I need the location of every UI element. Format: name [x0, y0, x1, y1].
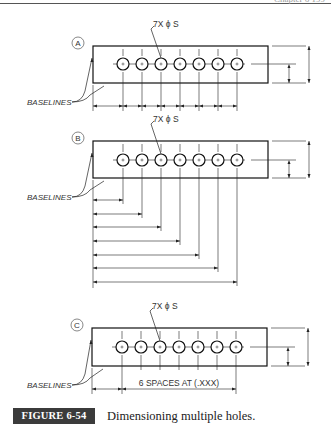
leader-line	[150, 311, 160, 341]
arrowhead-icon	[123, 105, 127, 108]
arrowhead-icon	[157, 226, 161, 229]
arrowhead-icon	[218, 105, 222, 108]
arrowhead-icon	[287, 362, 290, 366]
spaces-dimension-text: 6 SPACES AT (.XXX)	[139, 378, 219, 388]
arrowhead-icon	[214, 105, 218, 108]
view-b: B7X ϕ SBASELINES	[27, 114, 311, 288]
figure-label: FIGURE 6-54	[13, 408, 95, 424]
arrowhead-icon	[92, 388, 96, 391]
textbook-figure-page: Chapter 6 199 A7X ϕ SBASELINESB7X ϕ SBAS…	[0, 0, 331, 434]
figure-caption: Dimensioning multiple holes.	[107, 408, 255, 424]
arrowhead-icon	[195, 105, 199, 108]
arrowhead-icon	[287, 347, 290, 351]
arrowhead-icon	[308, 141, 311, 145]
baseline-leader	[72, 369, 103, 385]
arrowhead-icon	[93, 240, 97, 243]
arrowhead-icon	[176, 240, 180, 243]
arrowhead-icon	[307, 362, 310, 366]
arrowhead-icon	[161, 105, 165, 108]
arrowhead-icon	[199, 105, 203, 108]
view-marker-label: C	[74, 321, 80, 330]
arrowhead-icon	[93, 226, 97, 229]
baselines-label: BASELINES	[27, 193, 72, 202]
arrowhead-icon	[195, 254, 199, 257]
baseline-leader	[72, 181, 104, 197]
baseline-leader	[72, 58, 92, 102]
arrowhead-icon	[93, 105, 97, 108]
arrowhead-icon	[138, 105, 142, 108]
arrowhead-icon	[93, 281, 97, 284]
arrowhead-icon	[142, 105, 146, 108]
arrowhead-icon	[288, 174, 291, 178]
arrowhead-icon	[233, 281, 237, 284]
hole-callout: 7X ϕ S	[153, 114, 179, 124]
baseline-leader	[72, 340, 91, 385]
leader-line	[151, 29, 161, 58]
arrowhead-icon	[157, 105, 161, 108]
arrowhead-icon	[308, 174, 311, 178]
arrowhead-icon	[118, 388, 122, 391]
arrowhead-icon	[93, 213, 97, 216]
arrowhead-icon	[180, 105, 184, 108]
arrowhead-icon	[232, 388, 236, 391]
arrowhead-icon	[93, 267, 97, 270]
arrowhead-icon	[119, 199, 123, 202]
view-marker-label: A	[75, 39, 81, 48]
baselines-label: BASELINES	[27, 381, 72, 390]
hole-callout: 7X ϕ S	[152, 301, 178, 311]
technical-drawing: A7X ϕ SBASELINESB7X ϕ SBASELINESC7X ϕ SB…	[0, 0, 331, 434]
baselines-label: BASELINES	[27, 98, 72, 107]
arrowhead-icon	[288, 64, 291, 68]
arrowhead-icon	[308, 79, 311, 83]
baseline-leader	[72, 153, 92, 197]
view-c: C7X ϕ SBASELINES6 SPACES AT (.XXX)	[27, 301, 310, 394]
arrowhead-icon	[308, 46, 311, 50]
arrowhead-icon	[93, 254, 97, 257]
arrowhead-icon	[138, 213, 142, 216]
hole-callout: 7X ϕ S	[153, 19, 179, 29]
leader-line	[151, 124, 161, 154]
view-marker-label: B	[75, 134, 80, 143]
view-a: A7X ϕ SBASELINES	[27, 19, 311, 111]
arrowhead-icon	[307, 328, 310, 332]
arrowhead-icon	[122, 388, 126, 391]
arrowhead-icon	[214, 267, 218, 270]
arrowhead-icon	[288, 160, 291, 164]
arrowhead-icon	[176, 105, 180, 108]
arrowhead-icon	[288, 79, 291, 83]
baseline-leader	[72, 86, 104, 102]
arrowhead-icon	[233, 105, 237, 108]
arrowhead-icon	[93, 199, 97, 202]
arrowhead-icon	[119, 105, 123, 108]
